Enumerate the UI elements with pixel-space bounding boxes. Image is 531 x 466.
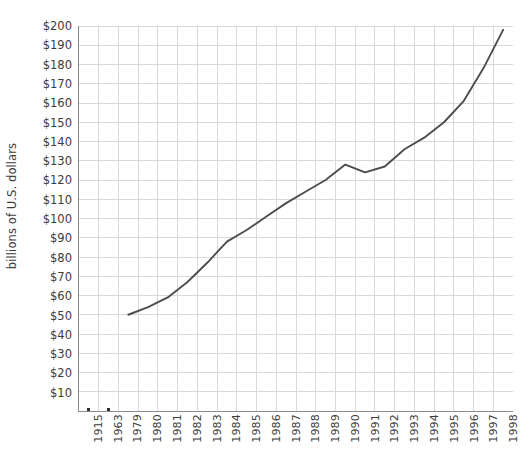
y-axis-tick-label: $200 bbox=[43, 19, 72, 33]
x-axis-tick-label: 1992 bbox=[388, 414, 401, 443]
y-axis-tick-label: $110 bbox=[43, 193, 72, 207]
y-axis-tick-labels: $200$190$180$170$160$150$140$130$120$110… bbox=[24, 0, 76, 412]
y-axis-title-label: billions of U.S. dollars bbox=[5, 143, 19, 269]
y-axis-tick-label: $50 bbox=[50, 309, 72, 323]
x-axis-tick-label: 1987 bbox=[290, 414, 303, 443]
y-axis-title: billions of U.S. dollars bbox=[0, 0, 24, 412]
data-line bbox=[79, 26, 513, 411]
x-axis-tick-label: 1981 bbox=[171, 414, 184, 443]
y-axis-tick-label: $160 bbox=[43, 96, 72, 110]
y-axis-tick-label: $130 bbox=[43, 154, 72, 168]
y-axis-tick-label: $150 bbox=[43, 116, 72, 130]
x-axis-tick-labels: 1915196319791980198119821983198419851986… bbox=[78, 414, 513, 466]
y-axis-tick-label: $100 bbox=[43, 212, 72, 226]
y-axis-tick-label: $180 bbox=[43, 58, 72, 72]
x-axis-tick-label: 1985 bbox=[250, 414, 263, 443]
x-axis-tick-label: 1988 bbox=[309, 414, 322, 443]
x-axis-tick-label: 1983 bbox=[211, 414, 224, 443]
x-axis-tick-label: 1979 bbox=[131, 414, 144, 443]
line-chart: billions of U.S. dollars $200$190$180$17… bbox=[0, 0, 531, 466]
y-axis-tick-label: $10 bbox=[50, 386, 72, 400]
x-axis-tick-label: 1989 bbox=[329, 414, 342, 443]
x-axis-tick-label: 1998 bbox=[507, 414, 520, 443]
axis-marker-1915 bbox=[87, 408, 90, 411]
y-axis-tick-label: $60 bbox=[50, 289, 72, 303]
y-axis-tick-label: $90 bbox=[50, 231, 72, 245]
x-axis-tick-label: 1982 bbox=[191, 414, 204, 443]
x-axis-tick-label: 1980 bbox=[151, 414, 164, 443]
y-axis-tick-label: $40 bbox=[50, 328, 72, 342]
y-axis-tick-label: $140 bbox=[43, 135, 72, 149]
x-axis-tick-label: 1997 bbox=[487, 414, 500, 443]
x-axis-tick-label: 1963 bbox=[112, 414, 125, 443]
axis-marker-1963 bbox=[107, 408, 110, 411]
y-axis-tick-label: $70 bbox=[50, 270, 72, 284]
x-axis-tick-label: 1996 bbox=[468, 414, 481, 443]
y-axis-tick-label: $80 bbox=[50, 251, 72, 265]
x-axis-tick-label: 1986 bbox=[270, 414, 283, 443]
y-axis-tick-label: $170 bbox=[43, 77, 72, 91]
x-axis-tick-label: 1991 bbox=[369, 414, 382, 443]
y-axis-tick-label: $120 bbox=[43, 173, 72, 187]
x-axis-tick-label: 1990 bbox=[349, 414, 362, 443]
x-axis-tick-label: 1993 bbox=[408, 414, 421, 443]
x-axis-tick-label: 1984 bbox=[230, 414, 243, 443]
x-axis-tick-label: 1994 bbox=[428, 414, 441, 443]
x-axis-tick-label: 1995 bbox=[448, 414, 461, 443]
plot-area bbox=[78, 26, 513, 412]
y-axis-tick-label: $190 bbox=[43, 38, 72, 52]
y-axis-tick-label: $20 bbox=[50, 366, 72, 380]
y-axis-tick-label: $30 bbox=[50, 347, 72, 361]
x-axis-tick-label: 1915 bbox=[92, 414, 105, 443]
